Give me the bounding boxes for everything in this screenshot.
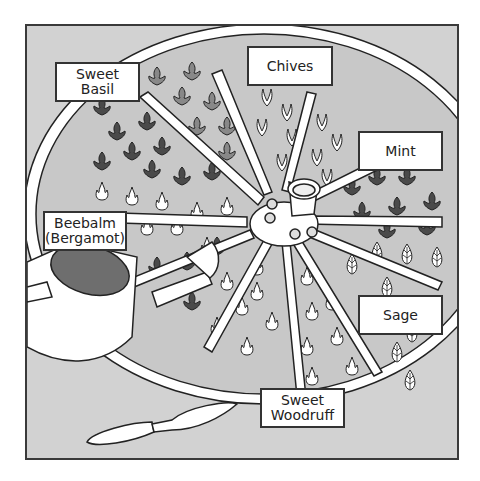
label-sweet-woodruff: Sweet Woodruff [260,388,345,428]
label-text: Mint [385,144,415,159]
label-sweet-basil: Sweet Basil [55,62,140,102]
label-text: Sage [383,308,418,323]
label-sage: Sage [358,295,443,335]
label-chives: Chives [247,46,333,86]
label-text: Chives [267,59,314,74]
illustration-frame: Sweet Basil Chives Mint Beebalm (Bergamo… [25,24,459,460]
label-mint: Mint [358,131,443,171]
trowel [87,403,237,445]
label-text: Sweet Woodruff [271,393,334,423]
label-text: Beebalm (Bergamot) [45,216,125,246]
label-text: Sweet Basil [76,67,119,97]
label-beebalm: Beebalm (Bergamot) [43,211,127,251]
